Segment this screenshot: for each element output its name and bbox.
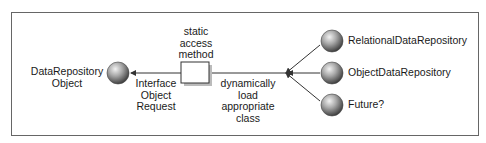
access-label-line3: method bbox=[174, 49, 218, 61]
source-label-line1: DataRepository bbox=[30, 66, 104, 78]
access-label-line1: static bbox=[174, 26, 218, 38]
target-label-relational: RelationalDataRepository bbox=[348, 35, 467, 47]
access-box bbox=[181, 62, 209, 83]
request-label-line1: Interface bbox=[134, 78, 178, 90]
request-label: Interface Object Request bbox=[134, 78, 178, 113]
target-label-object: ObjectDataRepository bbox=[348, 67, 451, 79]
future-sphere-icon bbox=[321, 94, 343, 116]
source-label-line2: Object bbox=[30, 78, 104, 90]
load-label-line4: class bbox=[218, 113, 278, 125]
source-node-label: DataRepository Object bbox=[30, 66, 104, 89]
relational-sphere-icon bbox=[321, 30, 343, 52]
access-box-label: static access method bbox=[174, 26, 218, 61]
request-label-line3: Request bbox=[134, 101, 178, 113]
load-label: dynamically load appropriate class bbox=[218, 78, 278, 124]
load-label-line1: dynamically bbox=[218, 78, 278, 90]
source-sphere-icon bbox=[107, 62, 129, 84]
fork-arrow-future bbox=[286, 73, 320, 101]
object-sphere-icon bbox=[321, 62, 343, 84]
load-label-line3: appropriate bbox=[218, 101, 278, 113]
fork-arrow-relational bbox=[286, 45, 320, 73]
target-label-future: Future? bbox=[348, 99, 384, 111]
